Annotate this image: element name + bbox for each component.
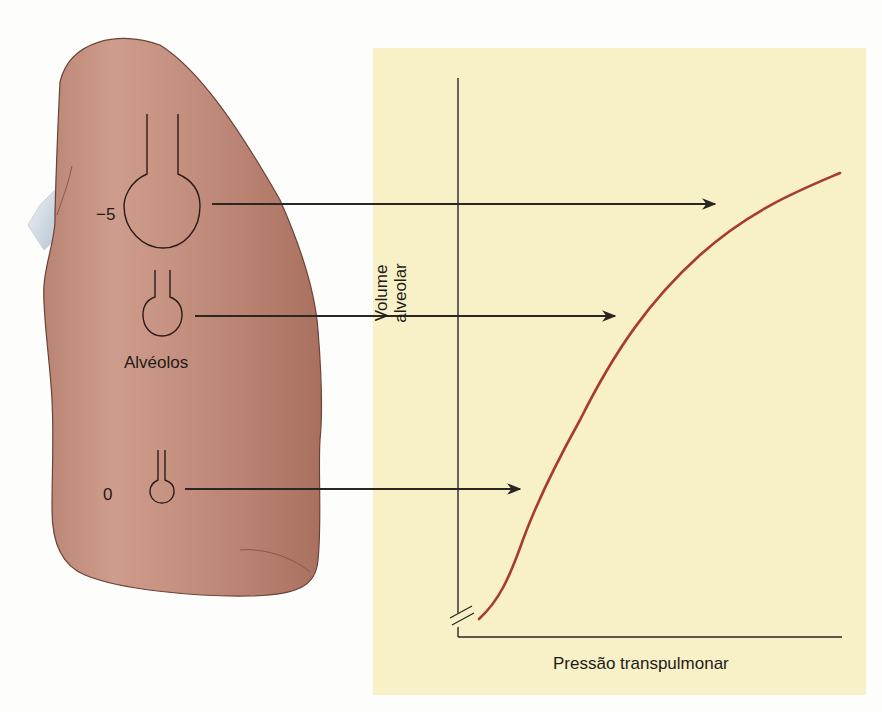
y-axis-label: Volume alveolar bbox=[372, 233, 410, 353]
axis-break-icon bbox=[446, 606, 474, 630]
pressure-volume-chart bbox=[0, 0, 882, 712]
x-axis-label: Pressão transpulmonar bbox=[553, 655, 729, 672]
lung-compliance-figure: −5 Alvéolos 0 Volume alveolar Pressão tr… bbox=[0, 0, 882, 712]
pv-curve bbox=[479, 173, 840, 619]
